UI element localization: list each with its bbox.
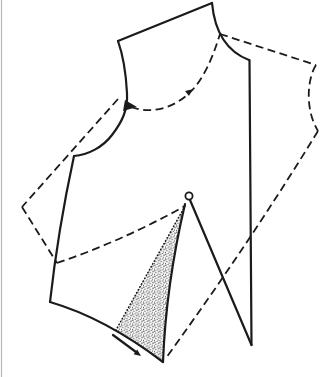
dashed-neckline-curve: [309, 65, 318, 131]
shoulder-seam: [118, 3, 212, 41]
diagram-canvas: [0, 0, 323, 377]
dashed-hem-segment: [22, 207, 57, 263]
pivot-direction-arrowhead: [185, 89, 193, 96]
side-seam: [50, 156, 74, 302]
dashed-side-seam: [22, 99, 118, 207]
pivot-point-circle: [185, 192, 192, 199]
pivot-to-center-corner-line: [190, 200, 252, 345]
dashed-armhole-curve: [131, 34, 220, 110]
dart-spread-stipple-area: [116, 206, 185, 362]
center-line: [250, 60, 252, 345]
neckline-curve: [212, 3, 249, 60]
dashed-shoulder-seam: [220, 34, 316, 65]
pattern-pivot-diagram: [0, 0, 323, 377]
armhole-notch-arrowhead: [123, 100, 137, 111]
